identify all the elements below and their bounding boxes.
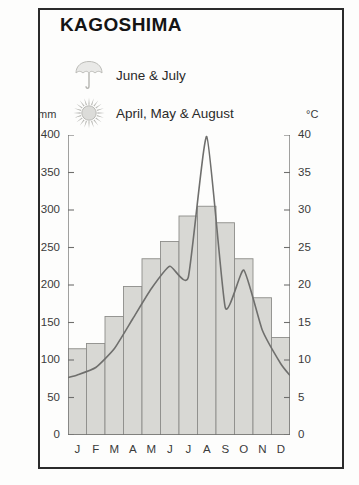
y-tick-right-25: 25 — [298, 241, 332, 253]
bar-J — [68, 349, 87, 435]
y-tick-left-200: 200 — [26, 278, 60, 290]
y-tick-right-40: 40 — [298, 128, 332, 140]
y-tick-left-250: 250 — [26, 241, 60, 253]
y-tick-right-30: 30 — [298, 203, 332, 215]
y-tick-right-35: 35 — [298, 166, 332, 178]
y-tick-left-400: 400 — [26, 128, 60, 140]
y-tick-left-150: 150 — [26, 316, 60, 328]
sun-icon — [72, 96, 106, 130]
month-label-may: M — [142, 443, 160, 455]
month-label-october: O — [235, 443, 253, 455]
month-label-february: F — [87, 443, 105, 455]
bar-M — [105, 317, 124, 436]
y-tick-right-10: 10 — [298, 353, 332, 365]
page-title: KAGOSHIMA — [60, 14, 182, 36]
month-label-november: N — [253, 443, 271, 455]
month-label-december: D — [272, 443, 290, 455]
right-axis-unit: °C — [306, 108, 318, 120]
left-axis-unit: mm — [38, 108, 56, 120]
legend-label-rain: June & July — [116, 68, 186, 83]
month-label-august: A — [198, 443, 216, 455]
climate-chart — [68, 135, 290, 435]
month-label-march: M — [105, 443, 123, 455]
y-tick-right-15: 15 — [298, 316, 332, 328]
y-tick-left-0: 0 — [26, 428, 60, 440]
month-label-january: J — [68, 443, 86, 455]
plot-area — [68, 135, 290, 435]
y-tick-right-0: 0 — [298, 428, 332, 440]
month-label-june: J — [161, 443, 179, 455]
bar-M — [142, 259, 161, 435]
y-tick-left-50: 50 — [26, 391, 60, 403]
bar-J — [161, 242, 180, 436]
month-label-july: J — [179, 443, 197, 455]
climate-graph-panel: KAGOSHIMA June & July April, May & Augus… — [0, 0, 359, 485]
umbrella-icon — [72, 58, 106, 92]
legend-item-rain: June & July — [72, 58, 186, 92]
legend-label-sun: April, May & August — [116, 106, 234, 121]
y-tick-right-20: 20 — [298, 278, 332, 290]
bar-N — [253, 298, 272, 435]
y-tick-left-350: 350 — [26, 166, 60, 178]
legend-item-sun: April, May & August — [72, 96, 234, 130]
y-tick-left-100: 100 — [26, 353, 60, 365]
bar-A — [198, 206, 217, 435]
precipitation-bars — [68, 206, 290, 435]
bar-F — [87, 344, 106, 436]
bar-J — [179, 216, 198, 435]
month-label-april: A — [124, 443, 142, 455]
month-label-september: S — [216, 443, 234, 455]
y-tick-right-5: 5 — [298, 391, 332, 403]
y-tick-left-300: 300 — [26, 203, 60, 215]
